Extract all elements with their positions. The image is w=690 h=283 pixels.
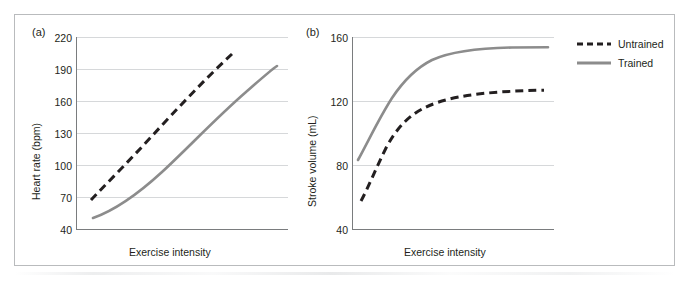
panel-a-ytick-160: 160 [42, 96, 72, 108]
legend-swatch-solid-icon [576, 58, 612, 68]
panel-b-series-untrained [361, 90, 544, 201]
panel-a-series-untrained [91, 54, 232, 200]
legend-swatch-dashed-icon [576, 39, 612, 49]
legend-label-trained: Trained [618, 57, 653, 69]
panel-a-ytick-130: 130 [42, 128, 72, 140]
legend: Untrained Trained [576, 36, 664, 74]
panel-b-ytick-40: 40 [318, 224, 348, 236]
panel-b-ylabel: Stroke volume (mL) [306, 115, 318, 207]
panel-b-ytick-80: 80 [318, 160, 348, 172]
panel-b-series-trained [358, 47, 548, 160]
panel-a-series-trained [93, 66, 277, 218]
legend-item-untrained: Untrained [576, 36, 664, 52]
panel-a-ytick-190: 190 [42, 64, 72, 76]
panel-b-ytick-160: 160 [318, 32, 348, 44]
panel-a-xlabel: Exercise intensity [129, 246, 211, 258]
figure-root: (a) Heart rate (bpm) 220 190 160 130 100… [0, 0, 690, 283]
panel-b-plot [352, 32, 554, 238]
panel-a-ytick-220: 220 [42, 32, 72, 44]
panel-b-xlabel: Exercise intensity [404, 246, 486, 258]
panel-a-ytick-70: 70 [42, 192, 72, 204]
panel-b-ytick-120: 120 [318, 96, 348, 108]
panel-a-ytick-40: 40 [42, 224, 72, 236]
panel-a-ylabel: Heart rate (bpm) [30, 123, 42, 200]
legend-label-untrained: Untrained [618, 38, 664, 50]
page-artifact [14, 272, 675, 275]
legend-item-trained: Trained [576, 55, 664, 71]
panel-a-plot [76, 32, 288, 238]
panel-a-ytick-100: 100 [42, 160, 72, 172]
